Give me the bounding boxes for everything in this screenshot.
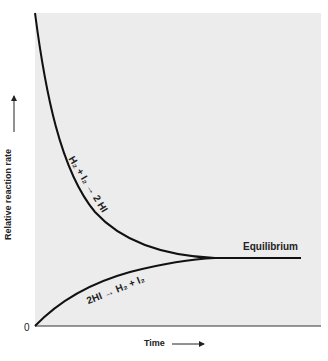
- reverse-reaction-curve: [35, 258, 215, 326]
- origin-label: 0: [24, 322, 30, 333]
- equilibrium-label: Equilibrium: [243, 241, 298, 252]
- chart-svg: [0, 0, 328, 361]
- y-axis-label: Relative reaction rate: [3, 149, 13, 240]
- forward-reaction-curve: [35, 13, 215, 258]
- x-axis-label: Time: [144, 338, 165, 348]
